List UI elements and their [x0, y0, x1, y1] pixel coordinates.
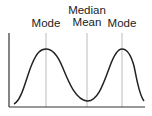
- mode-left-label: Mode: [32, 17, 61, 29]
- mean-label: Mean: [73, 16, 102, 28]
- distribution-curve: [14, 49, 144, 104]
- mode-right-label: Mode: [108, 17, 137, 29]
- median-label: Median: [68, 4, 106, 16]
- bimodal-distribution-diagram: Mode Median Mean Mode: [0, 0, 152, 116]
